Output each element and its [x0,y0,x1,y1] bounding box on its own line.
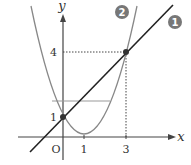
intersection-point-3-4 [123,49,129,55]
tick-y4: 4 [50,46,57,59]
x-axis-label: x [177,129,185,144]
axes [18,14,176,160]
tick-y1: 1 [50,111,57,124]
intersection-point-0-1 [60,114,66,120]
y-axis-label: y [57,0,66,13]
origin-label: O [51,143,60,156]
badge-label-1: 1 [172,17,179,28]
parabola-curve [31,6,137,134]
badge-parabola: 2 [115,5,129,19]
y-axis-arrow-icon [60,14,66,22]
badge-line: 1 [168,15,182,29]
badge-label-2: 2 [119,7,126,18]
graph: 4 1 O 1 3 x y 2 1 [0,0,191,165]
tick-x3: 3 [123,143,130,156]
line-curve [30,5,173,152]
x-axis-arrow-icon [168,134,176,140]
tick-x1: 1 [81,143,88,156]
